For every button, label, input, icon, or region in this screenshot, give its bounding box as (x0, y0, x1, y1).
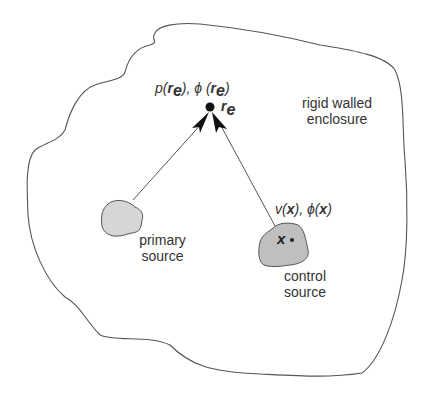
control-point-dot (290, 238, 294, 242)
phase-symbol: ), ϕ( (294, 201, 319, 217)
primary-source-label: primary source (130, 232, 195, 264)
enclosure-label-line2: enclosure (292, 111, 382, 127)
primary-source-label-line2: source (130, 248, 195, 264)
control-source-label-line2: source (275, 284, 335, 300)
primary-source-shape (102, 200, 143, 236)
control-source-label: control source (275, 268, 335, 300)
primary-source-label-line1: primary (130, 232, 195, 248)
velocity-symbol: v( (275, 201, 287, 217)
x-symbol: x (319, 201, 327, 217)
primary-path-arrow (133, 122, 203, 200)
acoustic-enclosure-diagram (0, 0, 428, 397)
control-arrowhead-icon (212, 112, 227, 133)
close-paren: ) (225, 80, 230, 96)
error-point-dot (206, 103, 215, 112)
error-point-label: re (221, 98, 235, 114)
enclosure-label-line1: rigid walled (292, 95, 382, 111)
e-subscript: e (173, 82, 182, 99)
phase-symbol: ), ϕ ( (182, 80, 211, 96)
control-path-arrow (220, 124, 275, 226)
e-subscript: e (226, 101, 235, 118)
close-paren: ) (327, 201, 332, 217)
error-field-label: p(re), ϕ (re) (155, 80, 230, 96)
primary-arrowhead-icon (192, 112, 209, 133)
control-source-label-line1: control (275, 268, 335, 284)
e-subscript: e (216, 82, 225, 99)
control-field-label: v(x), ϕ(x) (275, 201, 332, 217)
enclosure-boundary (27, 23, 407, 376)
pressure-symbol: p( (155, 80, 167, 96)
control-point-label: x (277, 231, 285, 247)
enclosure-label: rigid walled enclosure (292, 95, 382, 127)
